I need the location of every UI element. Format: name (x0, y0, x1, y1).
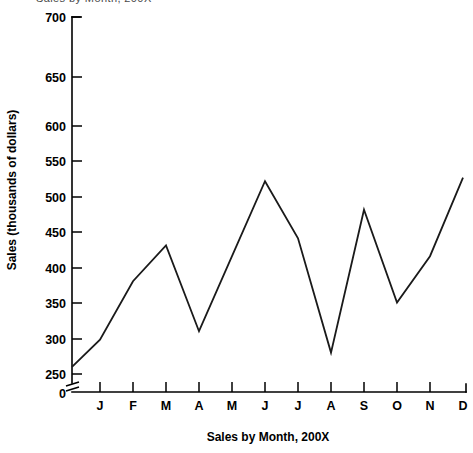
chart-canvas: 700 650 600 550 500 450 400 350 300 250 … (0, 0, 473, 453)
x-tick-label: M (227, 399, 237, 413)
x-tick-label: S (360, 399, 368, 413)
y-tick-label: 450 (45, 226, 66, 240)
y-tick-label: 650 (45, 71, 66, 85)
y-tick-label: 550 (45, 155, 66, 169)
y-tick-label: 600 (45, 120, 66, 134)
x-tick-label: O (392, 399, 402, 413)
x-tick-label: A (326, 399, 335, 413)
y-tick-label: 300 (45, 333, 66, 347)
sales-series-line (72, 178, 463, 367)
sales-line-chart-figure: Sales by Month, 200X (0, 0, 473, 453)
y-axis-title: Sales (thousands of dollars) (5, 110, 19, 271)
x-tick-label: D (458, 399, 467, 413)
x-axis-tick-labels: J F M A M J J A S O N D (97, 399, 468, 413)
y-tick-label: 500 (45, 191, 66, 205)
x-axis-title: Sales by Month, 200X (207, 430, 330, 444)
x-axis-ticks (100, 382, 430, 392)
x-tick-label: F (129, 399, 137, 413)
y-tick-label: 400 (45, 262, 66, 276)
y-axis-ticks (72, 17, 82, 374)
x-tick-label: J (295, 399, 302, 413)
x-tick-label: N (425, 399, 434, 413)
y-tick-label: 250 (45, 368, 66, 382)
x-tick-label: A (194, 399, 203, 413)
y-tick-label-zero: 0 (59, 387, 66, 401)
x-tick-label: J (97, 399, 104, 413)
x-tick-label: J (262, 399, 269, 413)
x-tick-label: M (161, 399, 171, 413)
y-axis-tick-labels: 700 650 600 550 500 450 400 350 300 250 … (45, 11, 66, 401)
y-axis-break-icon (66, 382, 79, 391)
y-tick-label: 350 (45, 297, 66, 311)
y-tick-label: 700 (45, 11, 66, 25)
